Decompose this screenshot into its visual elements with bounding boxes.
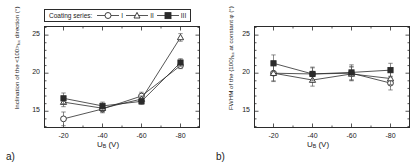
legend-label-iii: III: [181, 12, 186, 19]
y-axis-label-a: Inclination of the <100>fcc direction (°…: [13, 0, 21, 123]
y-tick-label: 15: [234, 106, 250, 113]
legend-entry-i: I: [97, 11, 123, 20]
data-point: [178, 60, 183, 65]
x-tick-label: -40: [302, 132, 324, 139]
y-axis-label-b-sub: fcc: [230, 52, 235, 57]
legend-label-ii: II: [150, 12, 154, 19]
data-point: [271, 61, 276, 66]
data-point: [61, 116, 67, 122]
legend-entry-iii: III: [157, 11, 186, 20]
y-tick-label: 20: [24, 68, 40, 75]
y-tick-label: 20: [234, 68, 250, 75]
y-axis-label-a-post: direction (°): [13, 7, 20, 40]
x-tick-label: -20: [263, 132, 285, 139]
data-point: [349, 70, 354, 75]
data-point: [139, 99, 144, 104]
y-axis-label-b: FWHM of the {100}fcc at constant φ (°): [227, 0, 235, 123]
x-tick-label: -80: [170, 132, 192, 139]
x-axis-label-b: UB (V): [288, 140, 348, 149]
panel-a-label: a): [6, 151, 15, 162]
plot-canvas-a: [44, 26, 200, 128]
y-axis-label-b-post: at constant φ (°): [227, 6, 234, 52]
legend-label-i: I: [121, 12, 123, 19]
plot-canvas-b: [254, 26, 410, 128]
y-axis-label-a-pre: Inclination of the <100>: [13, 45, 20, 109]
y-tick-label: 25: [24, 30, 40, 37]
x-tick-label: -60: [131, 132, 153, 139]
data-point: [61, 96, 66, 101]
x-tick-label: -60: [341, 132, 363, 139]
data-point: [388, 68, 393, 73]
open-triangle-icon: [126, 11, 148, 20]
panel-b: FWHM of the {100}fcc at constant φ (°) 1…: [210, 0, 419, 164]
series-i: [61, 63, 184, 126]
data-point: [177, 34, 183, 39]
data-point: [310, 71, 315, 76]
open-circle-icon: [97, 11, 119, 20]
series-ii: [60, 34, 183, 112]
x-tick-label: -20: [53, 132, 75, 139]
y-tick-label: 15: [24, 106, 40, 113]
panel-b-label: b): [216, 151, 225, 162]
y-axis-label-a-sub: fcc: [16, 40, 21, 45]
data-point: [100, 103, 105, 108]
y-tick-label: 25: [234, 30, 250, 37]
x-axis-label-a-post: (V): [106, 140, 119, 149]
x-axis-label-a: UB (V): [78, 140, 138, 149]
figure-two-panel-chart: Coating series: I II: [0, 0, 419, 164]
panel-a: Coating series: I II: [0, 0, 209, 164]
x-tick-label: -40: [92, 132, 114, 139]
x-tick-label: -80: [380, 132, 402, 139]
filled-square-icon: [157, 11, 179, 20]
legend-entry-ii: II: [126, 11, 154, 20]
legend: Coating series: I II: [44, 9, 191, 22]
x-axis-label-b-post: (V): [316, 140, 329, 149]
legend-title: Coating series:: [49, 12, 92, 19]
y-axis-label-b-pre: FWHM of the {100}: [227, 57, 234, 110]
series-ii: [270, 66, 393, 87]
